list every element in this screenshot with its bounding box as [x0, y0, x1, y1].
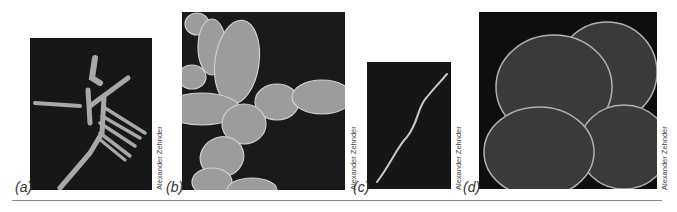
panel-label-d: (d)	[463, 180, 480, 194]
filamentous-cells-image	[30, 38, 152, 190]
micrograph-panel-a	[30, 38, 152, 190]
micrograph-panel-c	[367, 62, 451, 189]
panel-label-c: (c)	[353, 180, 369, 194]
micrograph-panel-b	[182, 12, 345, 190]
oval-cell-chains-image	[182, 12, 345, 190]
coccoid-cluster-image	[479, 12, 657, 189]
figure-bottom-rule	[12, 200, 662, 201]
photo-credit-c: Alexander Zehnder	[454, 126, 463, 190]
panel-label-b: (b)	[166, 180, 183, 194]
panel-label-a: (a)	[15, 180, 32, 194]
single-filament-image	[367, 62, 451, 189]
photo-credit-a: Alexander Zehnder	[155, 126, 164, 190]
photo-credit-d: Alexander Zehnder	[660, 126, 669, 190]
micrograph-panel-d	[479, 12, 657, 189]
